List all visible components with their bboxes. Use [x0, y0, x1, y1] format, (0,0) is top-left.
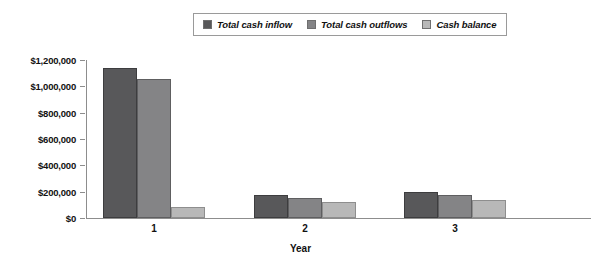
x-axis-title: Year — [0, 243, 601, 254]
bar-chart: Total cash inflowTotal cash outflowsCash… — [0, 0, 601, 265]
bar[interactable] — [288, 198, 322, 218]
y-axis-tick-label: $1,200,000 — [0, 55, 76, 66]
x-axis-tick-label: 1 — [103, 223, 205, 234]
y-axis-tick-label: $600,000 — [0, 134, 76, 145]
legend-item-label: Total cash inflow — [217, 19, 292, 30]
legend-swatch-icon — [203, 20, 212, 29]
bar[interactable] — [137, 79, 171, 218]
y-axis-tick-mark — [80, 86, 85, 87]
legend-item-label: Cash balance — [436, 19, 496, 30]
bar-group: 1 — [103, 60, 205, 218]
bar[interactable] — [438, 195, 472, 218]
bar[interactable] — [404, 192, 438, 218]
legend-item-label: Total cash outflows — [321, 19, 407, 30]
y-axis-line — [86, 60, 87, 219]
bar[interactable] — [103, 68, 137, 218]
y-axis-tick-label: $0 — [0, 213, 76, 224]
y-axis-tick-label: $1,000,000 — [0, 81, 76, 92]
y-axis-tick-mark — [80, 165, 85, 166]
bar[interactable] — [171, 207, 205, 218]
bar-group-bars — [254, 60, 356, 218]
x-axis-line — [86, 218, 591, 219]
y-axis-tick-mark — [80, 139, 85, 140]
y-axis-tick-label: $400,000 — [0, 160, 76, 171]
y-axis-tick-mark — [80, 192, 85, 193]
chart-legend: Total cash inflowTotal cash outflowsCash… — [193, 13, 507, 36]
bar[interactable] — [472, 200, 506, 218]
x-axis-tick-label: 3 — [404, 223, 506, 234]
y-axis-tick-mark — [80, 60, 85, 61]
legend-item: Total cash outflows — [307, 19, 407, 30]
bar[interactable] — [322, 202, 356, 218]
bar[interactable] — [254, 195, 288, 218]
y-axis-tick-mark — [80, 113, 85, 114]
y-axis-tick-label: $200,000 — [0, 186, 76, 197]
legend-swatch-icon — [422, 20, 431, 29]
y-axis-tick-mark — [80, 218, 85, 219]
y-axis-tick-label: $800,000 — [0, 107, 76, 118]
bar-group-bars — [103, 60, 205, 218]
bar-group-bars — [404, 60, 506, 218]
x-axis-tick-label: 2 — [254, 223, 356, 234]
legend-item: Cash balance — [422, 19, 496, 30]
legend-item: Total cash inflow — [203, 19, 292, 30]
bar-group: 3 — [404, 60, 506, 218]
legend-swatch-icon — [307, 20, 316, 29]
bar-group: 2 — [254, 60, 356, 218]
